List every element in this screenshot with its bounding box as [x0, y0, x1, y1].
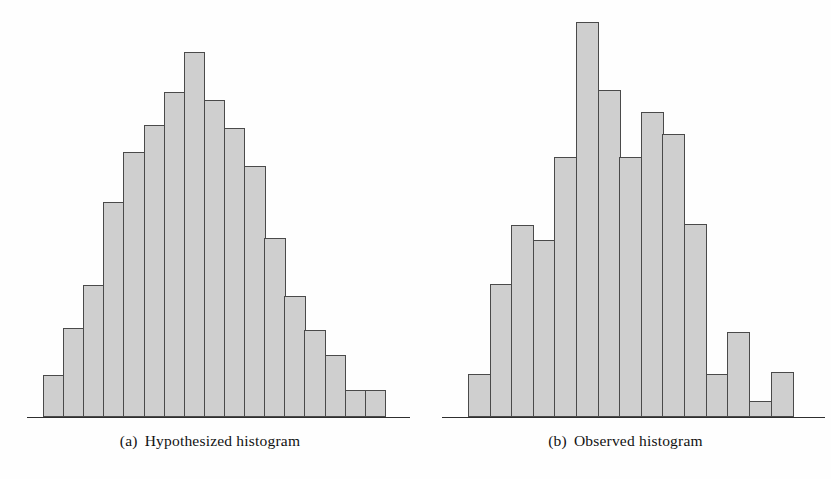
plot-area-hypothesized [0, 0, 420, 420]
bar-hypothesized-10 [224, 128, 246, 417]
bar-observed-12 [706, 374, 729, 417]
bar-observed-4 [533, 240, 556, 417]
bar-hypothesized-6 [144, 125, 166, 417]
bar-series-observed [468, 17, 814, 417]
bar-series-hypothesized [43, 17, 385, 417]
bar-observed-3 [511, 225, 534, 417]
caption-text-a: Hypothesized histogram [145, 432, 301, 449]
plot-area-observed [420, 0, 831, 420]
bar-observed-11 [684, 224, 707, 417]
bar-hypothesized-15 [325, 355, 347, 417]
bar-hypothesized-2 [63, 328, 85, 417]
bar-observed-5 [554, 157, 577, 417]
bar-observed-8 [619, 157, 642, 417]
caption-tag-a: (a) [120, 432, 138, 449]
bar-hypothesized-4 [103, 202, 125, 417]
bar-observed-13 [727, 332, 750, 417]
caption-tag-b: (b) [548, 432, 567, 449]
bar-hypothesized-9 [204, 100, 226, 417]
bar-observed-9 [641, 112, 664, 417]
caption-hypothesized: (a)Hypothesized histogram [0, 432, 420, 450]
bar-observed-1 [468, 374, 491, 417]
bar-hypothesized-13 [284, 296, 306, 417]
x-axis-hypothesized [27, 417, 410, 418]
bar-hypothesized-3 [83, 285, 105, 417]
bar-observed-10 [662, 134, 685, 417]
bar-observed-15 [771, 372, 794, 417]
bar-hypothesized-1 [43, 375, 65, 417]
x-axis-observed [442, 417, 825, 418]
figure-container: (a)Hypothesized histogram (b)Observed hi… [0, 0, 831, 479]
panel-hypothesized: (a)Hypothesized histogram [0, 0, 420, 479]
bar-hypothesized-17 [365, 390, 387, 417]
panel-observed: (b)Observed histogram [420, 0, 831, 479]
caption-text-b: Observed histogram [574, 432, 703, 449]
bar-hypothesized-16 [345, 390, 367, 417]
bar-hypothesized-11 [244, 166, 266, 417]
bar-hypothesized-12 [264, 238, 286, 417]
bar-observed-7 [598, 90, 621, 417]
bar-hypothesized-7 [164, 92, 186, 417]
caption-observed: (b)Observed histogram [420, 432, 831, 450]
bar-observed-6 [576, 22, 599, 417]
bar-observed-14 [749, 401, 772, 417]
bar-hypothesized-8 [184, 52, 206, 417]
bar-hypothesized-14 [304, 330, 326, 417]
bar-observed-2 [490, 284, 513, 417]
bar-hypothesized-5 [123, 152, 145, 417]
